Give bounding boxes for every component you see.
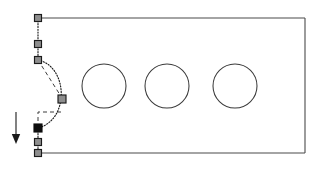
node-lower-mid[interactable] [35,139,42,146]
node-curve-start[interactable] [35,57,42,64]
node-upper-mid[interactable] [35,41,42,48]
node-bottom-corner[interactable] [35,150,42,157]
tangent-handles-group[interactable] [38,60,62,128]
sketch-drawing[interactable] [0,0,318,172]
hole-3[interactable] [213,64,257,108]
cad-canvas[interactable] [0,0,318,172]
selected-path-bezier-bulge[interactable] [38,60,61,128]
node-curve-end-selected[interactable] [34,124,42,132]
hole-1[interactable] [82,64,126,108]
selected-path-group[interactable] [38,18,61,153]
hole-2[interactable] [145,64,189,108]
arrow-head-icon [12,134,20,144]
part-outline-group[interactable] [38,18,305,153]
downward-direction-arrow [12,112,20,144]
node-top-corner[interactable] [35,15,42,22]
holes-group[interactable] [82,64,257,108]
node-handles-group[interactable] [34,15,66,157]
node-control-bulge[interactable] [58,95,66,103]
